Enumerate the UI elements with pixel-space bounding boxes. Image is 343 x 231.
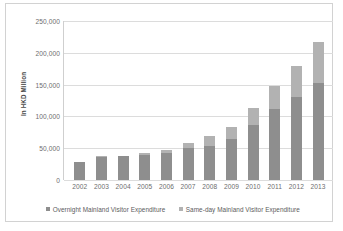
x-axis-tick-label: 2005 xyxy=(136,183,154,195)
x-axis-tick-label: 2011 xyxy=(266,183,284,195)
bar-segment-overnight[interactable] xyxy=(161,153,172,180)
x-axis-tick-label: 2002 xyxy=(71,183,89,195)
bar-segment-overnight[interactable] xyxy=(118,156,129,180)
bar-slot xyxy=(114,21,132,180)
bar-slot xyxy=(287,21,305,180)
stacked-bar[interactable] xyxy=(139,153,150,180)
x-axis-tick-label: 2013 xyxy=(309,183,327,195)
bar-segment-overnight[interactable] xyxy=(204,146,215,180)
bar-segment-overnight[interactable] xyxy=(183,148,194,180)
x-axis-tick-label: 2009 xyxy=(222,183,240,195)
stacked-bar[interactable] xyxy=(118,156,129,180)
x-axis-tick-label: 2003 xyxy=(92,183,110,195)
bar-slot xyxy=(201,21,219,180)
bar-segment-overnight[interactable] xyxy=(291,97,302,180)
legend-label: Overnight Mainland Visitor Expenditure xyxy=(53,206,166,213)
stacked-bar[interactable] xyxy=(161,150,172,180)
bar-slot xyxy=(222,21,240,180)
stacked-bar[interactable] xyxy=(183,143,194,180)
plot-area-wrapper xyxy=(63,21,333,180)
legend-swatch-icon xyxy=(179,207,183,211)
bar-segment-same-day[interactable] xyxy=(291,66,302,97)
stacked-bar[interactable] xyxy=(313,42,324,180)
bar-segment-same-day[interactable] xyxy=(204,136,215,146)
bar-segment-overnight[interactable] xyxy=(248,125,259,180)
bar-segment-overnight[interactable] xyxy=(313,83,324,180)
bar-segment-same-day[interactable] xyxy=(226,127,237,139)
x-axis-tick-label: 2007 xyxy=(179,183,197,195)
bar-slot xyxy=(157,21,175,180)
y-axis-tick-label: 100,000 xyxy=(14,113,60,120)
bar-slot xyxy=(71,21,89,180)
bar-segment-overnight[interactable] xyxy=(139,155,150,180)
x-axis-tick-label: 2006 xyxy=(157,183,175,195)
bar-segment-overnight[interactable] xyxy=(269,109,280,180)
legend-swatch-icon xyxy=(46,207,50,211)
stacked-bar[interactable] xyxy=(204,136,215,180)
stacked-bar[interactable] xyxy=(226,127,237,180)
x-axis-tick-label: 2012 xyxy=(287,183,305,195)
stacked-bar[interactable] xyxy=(291,66,302,180)
x-axis-tick-label: 2010 xyxy=(244,183,262,195)
legend-label: Same-day Mainland Visitor Expenditure xyxy=(186,206,300,213)
bar-series-group xyxy=(63,21,333,180)
y-axis-tick-label: 250,000 xyxy=(14,18,60,25)
bar-slot xyxy=(92,21,110,180)
bar-slot xyxy=(136,21,154,180)
y-axis-tick-label: 200,000 xyxy=(14,49,60,56)
bar-segment-same-day[interactable] xyxy=(248,108,259,125)
stacked-bar[interactable] xyxy=(269,86,280,180)
bar-segment-same-day[interactable] xyxy=(269,86,280,109)
bar-slot xyxy=(309,21,327,180)
y-axis-tick-label: 150,000 xyxy=(14,81,60,88)
bar-segment-overnight[interactable] xyxy=(226,139,237,180)
y-axis-tick-label: 50,000 xyxy=(14,145,60,152)
chart-legend: Overnight Mainland Visitor ExpenditureSa… xyxy=(14,203,332,215)
legend-entry[interactable]: Overnight Mainland Visitor Expenditure xyxy=(46,206,165,213)
bar-segment-overnight[interactable] xyxy=(96,157,107,180)
bar-segment-same-day[interactable] xyxy=(313,42,324,83)
bar-segment-overnight[interactable] xyxy=(74,162,85,180)
x-axis-tick-labels: 2002200320042005200620072008200920102011… xyxy=(63,183,333,195)
stacked-bar[interactable] xyxy=(248,108,259,180)
bar-slot xyxy=(179,21,197,180)
chart-figure: In HKD Million 250,000200,000150,000100,… xyxy=(5,3,333,222)
x-axis-tick-label: 2008 xyxy=(201,183,219,195)
stacked-bar[interactable] xyxy=(96,156,107,180)
x-axis-tick-label: 2004 xyxy=(114,183,132,195)
legend-entry[interactable]: Same-day Mainland Visitor Expenditure xyxy=(179,206,299,213)
y-axis-tick-label: 0 xyxy=(14,177,60,184)
y-axis-tick-labels: 250,000200,000150,000100,00050,0000 xyxy=(10,21,60,180)
bar-slot xyxy=(244,21,262,180)
bar-slot xyxy=(266,21,284,180)
stacked-bar[interactable] xyxy=(74,162,85,180)
gridline xyxy=(64,180,333,181)
